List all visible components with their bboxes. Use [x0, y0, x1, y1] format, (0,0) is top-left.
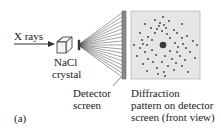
detector-leader-line [113, 77, 121, 86]
panel-label: (a) [14, 112, 26, 124]
pattern-label-line2: pattern on detector [131, 99, 213, 111]
pattern-label-line3: screen (front view) [131, 111, 215, 123]
pattern-label-line1: Diffraction [131, 87, 180, 99]
detector-screen [122, 11, 126, 79]
detector-label-line1: Detector [73, 87, 111, 99]
xrays-label: X rays [14, 30, 43, 42]
diffracted-rays [78, 13, 122, 77]
crystal-label-line1: NaCl [54, 56, 77, 68]
nacl-crystal-icon [57, 37, 72, 53]
detector-label-line2: screen [73, 99, 101, 111]
crystal-label-line2: crystal [52, 68, 81, 80]
